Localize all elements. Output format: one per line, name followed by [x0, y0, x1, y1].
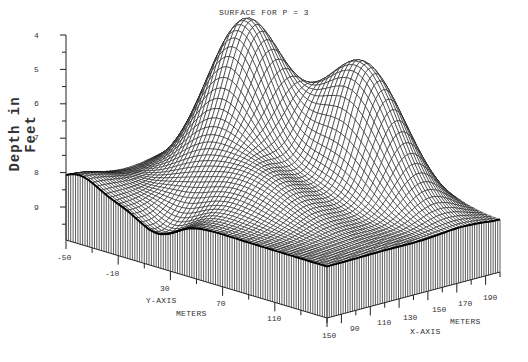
z-tick-9: 9 [34, 203, 39, 212]
y-tick-110: 110 [267, 314, 281, 323]
y-tick--50: -50 [57, 253, 71, 262]
y-tick-30: 30 [160, 284, 170, 293]
x-tick-170: 170 [458, 299, 472, 308]
y-axis-unit: METERS [176, 309, 207, 318]
y-axis-title: Y-AXIS [146, 296, 177, 305]
y-tick-150: 150 [322, 331, 336, 340]
x-tick-130: 130 [403, 313, 417, 322]
x-axis-title: X-AXIS [410, 327, 441, 336]
z-tick-6: 6 [34, 99, 39, 108]
x-tick-150: 150 [432, 305, 446, 314]
chart-title: SURFACE FOR P = 3 [0, 8, 528, 17]
x-tick-110: 110 [377, 318, 391, 327]
surface-mesh [66, 18, 500, 266]
z-tick-7: 7 [34, 133, 39, 142]
x-tick-90: 90 [350, 324, 360, 333]
y-tick--10: -10 [105, 269, 119, 278]
x-axis-unit: METERS [450, 317, 481, 326]
z-tick-5: 5 [34, 65, 39, 74]
z-tick-8: 8 [34, 168, 39, 177]
y-tick-70: 70 [216, 299, 226, 308]
z-tick-4: 4 [34, 31, 39, 40]
surface-plot [0, 0, 528, 362]
x-tick-190: 190 [483, 293, 497, 302]
